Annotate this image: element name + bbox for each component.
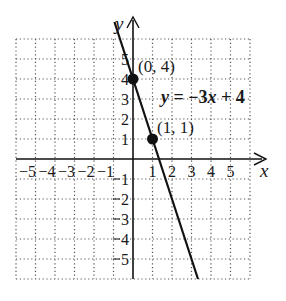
x-tick-label: −5 <box>19 163 36 180</box>
x-tick-label: −2 <box>77 163 94 180</box>
x-tick-label: 5 <box>227 163 235 180</box>
x-tick-label: 4 <box>207 163 215 180</box>
y-tick-label: 5 <box>121 251 129 268</box>
x-tick-label: 3 <box>188 163 196 180</box>
equation-label: y = −3x + 4 <box>159 87 245 107</box>
y-tick-label: 3 <box>121 91 129 108</box>
point-marker <box>128 74 139 85</box>
y-tick-label: 3 <box>121 211 129 228</box>
x-tick-label: −3 <box>58 163 75 180</box>
y-tick-label: 4 <box>121 231 129 248</box>
x-tick-label: −4 <box>38 163 55 180</box>
x-tick-label: 2 <box>168 163 176 180</box>
point-label-1-1: (1, 1) <box>157 118 194 137</box>
y-tick-label: 1 <box>121 131 129 148</box>
y-tick-label: 1 <box>121 171 129 188</box>
x-axis-label: x <box>259 160 269 181</box>
point-label-0-4: (0, 4) <box>138 57 175 76</box>
x-tick-label: −1 <box>97 163 114 180</box>
y-tick-label: 2 <box>121 191 129 208</box>
coordinate-plane: x y −5−4−3−2−1123455432112345 (0, 4) (1,… <box>0 0 286 301</box>
x-tick-label: 1 <box>149 163 157 180</box>
y-tick-label: 2 <box>121 111 129 128</box>
